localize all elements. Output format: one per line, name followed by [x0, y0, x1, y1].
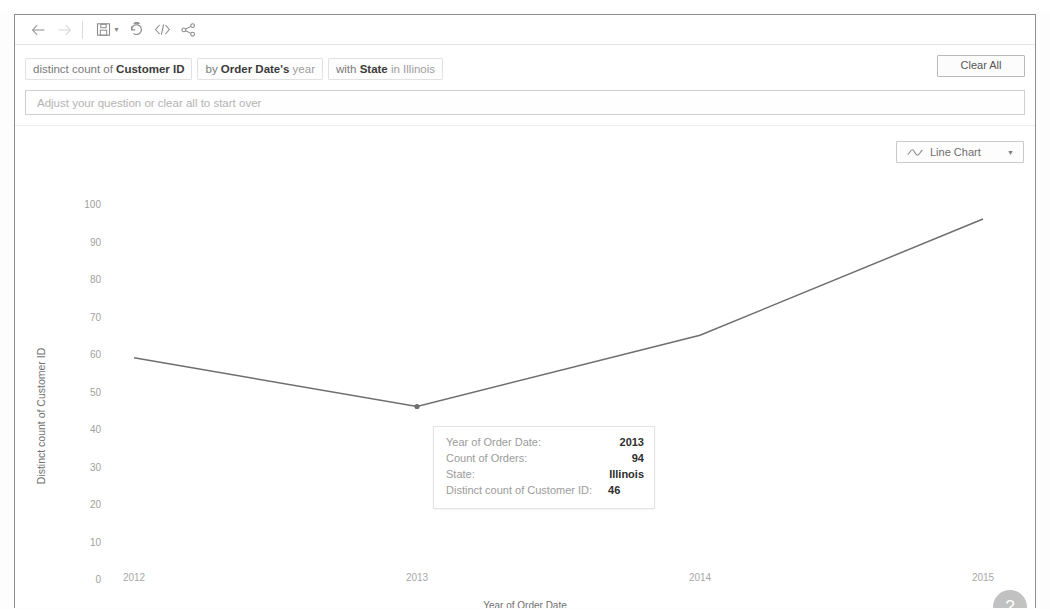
embed-code-button[interactable] [150, 19, 176, 41]
tooltip-row: Count of Orders: 94 [446, 451, 644, 466]
revert-arrow-icon [129, 22, 144, 37]
tooltip-label: Distinct count of Customer ID: [446, 483, 592, 498]
data-tooltip: Year of Order Date: 2013 Count of Orders… [433, 426, 655, 509]
tooltip-value: 94 [622, 451, 644, 466]
tooltip-label: State: [446, 467, 475, 482]
share-button[interactable] [176, 19, 202, 41]
tooltip-row: Distinct count of Customer ID: 46 [446, 483, 644, 498]
tooltip-value: 46 [598, 483, 620, 498]
save-dropdown-caret-icon[interactable]: ▼ [113, 26, 120, 33]
pill-prefix: distinct count of [33, 63, 116, 75]
pill-suffix: in Illinois [388, 63, 435, 75]
tooltip-label: Year of Order Date: [446, 435, 541, 450]
pill-field: State [360, 63, 388, 75]
clear-all-button[interactable]: Clear All [937, 55, 1025, 77]
tooltip-label: Count of Orders: [446, 451, 527, 466]
code-brackets-icon [154, 23, 171, 36]
visualization-panel: Line Chart ▼ Distinct count of Customer … [15, 125, 1035, 608]
pill-field: Customer ID [116, 63, 184, 75]
tooltip-value: Illinois [599, 467, 644, 482]
screenshot-page: ▼ [0, 0, 1050, 612]
pill-prefix: by [205, 63, 220, 75]
arrow-right-icon [57, 24, 72, 36]
arrow-left-icon [31, 24, 46, 36]
query-pill-dimension[interactable]: by Order Date's year [197, 58, 323, 80]
tooltip-row: Year of Order Date: 2013 [446, 435, 644, 450]
forward-button[interactable] [51, 19, 77, 41]
pill-suffix: year [289, 63, 315, 75]
toolbar: ▼ [15, 15, 1035, 45]
query-pill-measure[interactable]: distinct count of Customer ID [25, 58, 192, 80]
toolbar-divider [82, 21, 83, 39]
app-window: ▼ [14, 14, 1036, 608]
query-pill-row: distinct count of Customer ID by Order D… [15, 53, 1035, 85]
tooltip-value: 2013 [610, 435, 644, 450]
highlighted-data-point[interactable] [414, 404, 419, 409]
revert-button[interactable] [124, 19, 150, 41]
tooltip-row: State: Illinois [446, 467, 644, 482]
line-series-svg [15, 126, 1035, 606]
pill-prefix: with [336, 63, 360, 75]
share-nodes-icon [181, 23, 196, 37]
pill-field: Order Date's [221, 63, 290, 75]
series-line [134, 219, 983, 407]
query-pill-filter[interactable]: with State in Illinois [328, 58, 443, 80]
back-button[interactable] [25, 19, 51, 41]
plot-area: Distinct count of Customer ID 1009080706… [15, 126, 1035, 608]
question-input[interactable] [35, 96, 1024, 110]
floppy-disk-icon [96, 22, 111, 37]
page-top-margin [0, 0, 1050, 13]
question-input-wrapper[interactable] [25, 90, 1025, 115]
